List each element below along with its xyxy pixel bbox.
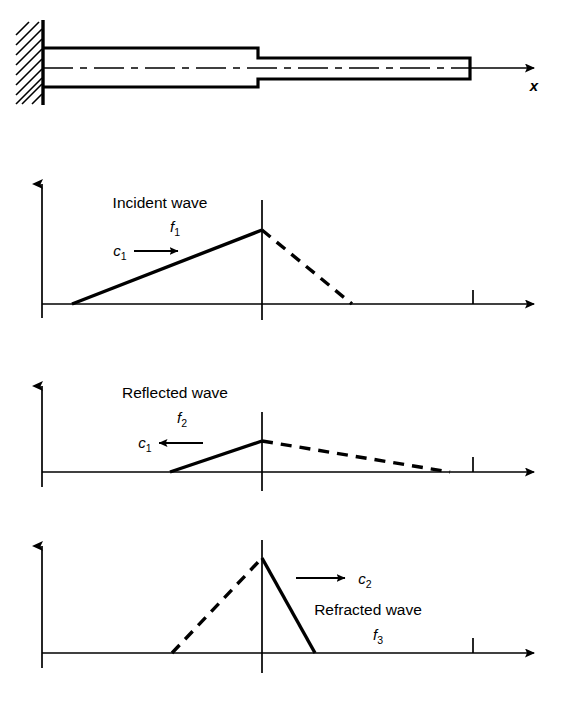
figure-root: x Incident wave f1 c1 Reflected wave	[0, 0, 564, 707]
plot1-speed-symbol: c1	[113, 242, 127, 262]
wave-propagation-figure: x Incident wave f1 c1 Reflected wave	[0, 0, 564, 707]
plot1-title: Incident wave	[113, 194, 208, 211]
plot2-symbol: f2	[177, 409, 187, 429]
fixed-support-hatching	[16, 22, 42, 104]
plot1-wave-solid	[72, 230, 262, 304]
plot3-title: Refracted wave	[314, 601, 422, 618]
plot3-wave-dashed	[172, 558, 262, 653]
plot3-speed-symbol: c2	[358, 570, 372, 590]
plot2-wave-dashed	[262, 441, 450, 472]
plot2-speed-symbol: c1	[138, 434, 152, 454]
plot2-title: Reflected wave	[122, 384, 228, 401]
plot1-symbol: f1	[170, 218, 180, 238]
plot3-wave-solid	[262, 558, 315, 653]
incident-wave-plot: Incident wave f1 c1	[42, 184, 534, 320]
plot1-wave-dashed	[262, 230, 352, 304]
stepped-bar-diagram: x	[16, 20, 539, 105]
plot3-symbol: f3	[373, 626, 383, 646]
reflected-wave-plot: Reflected wave f2 c1	[42, 384, 534, 491]
x-axis-label: x	[529, 77, 539, 94]
plot2-wave-solid	[170, 441, 262, 472]
refracted-wave-plot: c2 Refracted wave f3	[42, 540, 534, 673]
